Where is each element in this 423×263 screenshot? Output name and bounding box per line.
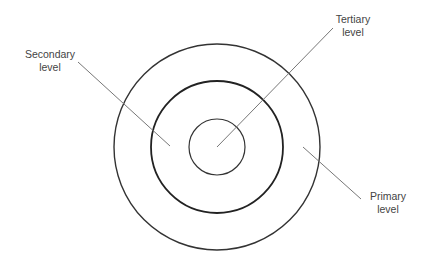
secondary-leader-line [78, 62, 170, 146]
concentric-levels-diagram [0, 0, 423, 263]
secondary-label-line2: level [22, 61, 78, 74]
tertiary-label-line2: level [330, 26, 376, 39]
tertiary-level-label: Tertiary level [330, 13, 376, 39]
primary-leader-line [303, 147, 361, 199]
secondary-level-label: Secondary level [22, 48, 78, 74]
secondary-label-line1: Secondary [22, 48, 78, 61]
primary-label-line1: Primary [364, 190, 412, 203]
primary-label-line2: level [364, 203, 412, 216]
tertiary-label-line1: Tertiary [330, 13, 376, 26]
primary-level-label: Primary level [364, 190, 412, 216]
